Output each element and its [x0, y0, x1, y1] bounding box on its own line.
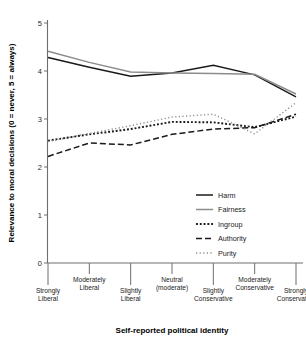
- y-axis-tick-label: 1: [38, 211, 42, 220]
- x-axis-category-label: Conservative: [277, 295, 306, 302]
- y-axis-tick-label: 3: [38, 115, 42, 124]
- legend-label-authority: Authority: [218, 234, 247, 243]
- series-layer: [48, 51, 296, 156]
- y-axis-tick-label: 5: [38, 19, 42, 28]
- legend-label-fairness: Fairness: [218, 205, 246, 214]
- legend-label-harm: Harm: [218, 191, 236, 200]
- x-axis-category-label: Moderately: [73, 276, 106, 284]
- x-axis-title: Self-reported political identity: [116, 326, 229, 335]
- line-chart-canvas: 012345 StronglyLiberalModeratelyLiberalS…: [0, 0, 306, 346]
- x-axis-category-label: Conservative: [194, 295, 233, 302]
- series-line-authority: [48, 114, 296, 156]
- x-axis-category-label: Liberal: [121, 295, 141, 302]
- x-axis-category-label: Strongly: [36, 287, 61, 295]
- y-axis-tick-label: 0: [38, 259, 42, 268]
- x-axis-category-label: Liberal: [38, 295, 58, 302]
- legend-label-ingroup: Ingroup: [218, 220, 242, 229]
- x-axis-category-label: Slightly: [203, 287, 225, 295]
- series-line-fairness: [48, 51, 296, 94]
- x-axis-category-label: Slightly: [120, 287, 142, 295]
- x-axis-category-label: Strongly: [284, 287, 306, 295]
- x-axis: StronglyLiberalModeratelyLiberalSlightly…: [36, 263, 306, 302]
- x-axis-category-label: Conservative: [235, 284, 274, 291]
- chart-legend: HarmFairnessIngroupAuthorityPurity: [196, 191, 247, 258]
- chart-figure: 012345 StronglyLiberalModeratelyLiberalS…: [0, 0, 306, 346]
- x-axis-category-label: Neutral: [161, 276, 183, 283]
- y-axis: 012345: [38, 19, 48, 268]
- x-axis-category-label: Liberal: [79, 284, 99, 291]
- y-axis-tick-label: 4: [38, 67, 42, 76]
- series-line-harm: [48, 58, 296, 97]
- y-axis-title: Relevance to moral decisions (0 = never,…: [7, 43, 16, 242]
- series-line-ingroup: [48, 117, 296, 141]
- x-axis-category-label: Moderately: [238, 276, 271, 284]
- y-axis-tick-label: 2: [38, 163, 42, 172]
- x-axis-category-label: (moderate): [156, 284, 188, 292]
- legend-label-purity: Purity: [218, 249, 237, 258]
